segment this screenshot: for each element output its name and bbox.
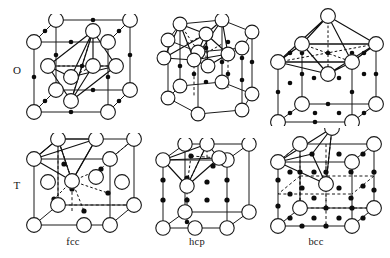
column-label-bcc: bcc (286, 236, 346, 247)
crystal-interstitial-sites-figure: O T fcc hcp bcc (0, 0, 390, 258)
column-label-fcc: fcc (43, 236, 103, 247)
row-label-tetrahedral: T (6, 179, 28, 191)
cell-hcp-tetrahedral (151, 138, 263, 238)
cell-hcp-octahedral (146, 14, 262, 126)
cell-fcc-octahedral (26, 14, 144, 126)
row-label-octahedral: O (6, 64, 28, 76)
cell-bcc-octahedral (266, 8, 386, 126)
cell-bcc-tetrahedral (266, 128, 388, 236)
cell-fcc-tetrahedral (26, 133, 148, 235)
